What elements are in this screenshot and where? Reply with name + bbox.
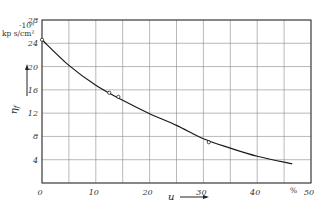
- x-axis-arrow: [180, 195, 209, 199]
- x-axis-label: u: [168, 191, 174, 202]
- svg-text:ηf: ηf: [8, 104, 21, 114]
- x-tick-label: 0: [37, 188, 42, 197]
- y-tick-label: 24: [27, 39, 38, 48]
- y-tick-label: 4: [32, 156, 38, 165]
- x-tick-label: 40: [249, 188, 260, 197]
- x-tick-labels: 01020304050: [37, 188, 314, 197]
- y-axis-label: ηf: [8, 104, 21, 114]
- data-points: [40, 38, 210, 144]
- grid: [42, 20, 311, 183]
- x-tick-label: 20: [142, 188, 153, 197]
- chart: 481216202428 01020304050 ·10⁸ kp s/cm² η…: [0, 0, 324, 213]
- data-point: [207, 141, 210, 144]
- y-tick-label: 8: [33, 132, 38, 141]
- y-tick-labels: 481216202428: [27, 16, 38, 165]
- x-tick-label: 30: [196, 188, 206, 197]
- x-tick-label: 50: [304, 188, 314, 197]
- x-tick-label: 10: [89, 188, 99, 197]
- x-unit-label: %: [290, 186, 297, 195]
- data-point: [117, 95, 120, 98]
- data-point: [40, 38, 43, 41]
- data-point: [108, 91, 111, 94]
- y-unit-label: kp s/cm²: [2, 29, 34, 38]
- y-tick-label: 16: [28, 86, 38, 95]
- data-curve: [42, 40, 292, 164]
- y-tick-label: 12: [28, 109, 38, 118]
- y-tick-label: 20: [27, 63, 38, 72]
